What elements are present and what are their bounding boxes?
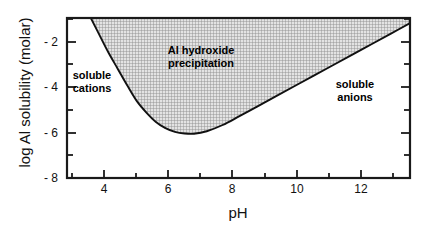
y-tick-label-minus6: - 6 (18, 126, 58, 140)
annotation-anions-line2: anions (325, 91, 385, 104)
x-tick-label-4: 4 (84, 182, 124, 196)
annotation-anions-line1: soluble (325, 78, 385, 91)
x-tick-label-12: 12 (341, 182, 381, 196)
y-tick-label-minus2: - 2 (18, 35, 58, 49)
y-axis-ticks-right (401, 19, 410, 178)
y-axis-ticks (67, 19, 76, 178)
annotation-soluble-cations: soluble cations (62, 69, 122, 95)
x-tick-label-8: 8 (212, 182, 252, 196)
annotation-precipitation-line2: precipitation (140, 57, 262, 70)
annotation-cations-line2: cations (62, 82, 122, 95)
y-tick-label-minus4: - 4 (18, 80, 58, 94)
annotation-precipitation: Al hydroxide precipitation (140, 44, 262, 70)
y-tick-label-minus8: - 8 (18, 171, 58, 185)
chart-figure: log Al solubility (molar) pH - 2 - 4 - 6… (0, 0, 424, 235)
solubility-chart-plot (0, 0, 424, 235)
x-tick-label-6: 6 (148, 182, 188, 196)
x-tick-label-10: 10 (277, 182, 317, 196)
annotation-precipitation-line1: Al hydroxide (140, 44, 262, 57)
x-axis-title: pH (66, 204, 410, 221)
annotation-cations-line1: soluble (62, 69, 122, 82)
annotation-soluble-anions: soluble anions (325, 78, 385, 104)
precipitation-shaded-region (91, 18, 410, 134)
x-axis-ticks (72, 170, 393, 178)
